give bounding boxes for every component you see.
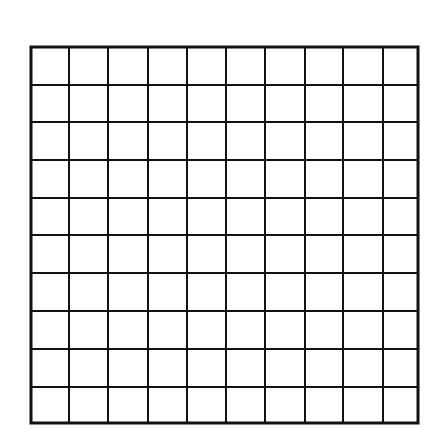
grid-lines bbox=[31, 47, 418, 423]
grid-diagram bbox=[0, 0, 440, 446]
